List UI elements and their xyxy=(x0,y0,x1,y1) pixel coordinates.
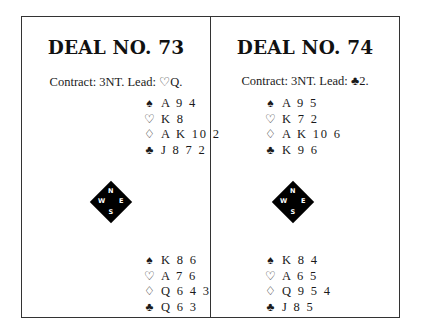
spade-icon: ♠ xyxy=(143,253,156,269)
club-cards: J 8 5 xyxy=(282,300,315,316)
spade-cards: A 9 4 xyxy=(161,96,197,112)
compass-north: N xyxy=(108,188,113,195)
club-cards: K 9 6 xyxy=(282,143,319,159)
north-hand: ♠ A 9 5 ♡ K 7 2 ♢ A K 10 6 ♣ K 9 6 xyxy=(264,96,342,158)
compass-east: E xyxy=(119,198,123,205)
north-hearts: ♡ K 8 xyxy=(143,112,221,128)
compass-north: N xyxy=(290,188,295,195)
club-cards: J 8 7 2 xyxy=(161,143,207,159)
spade-icon: ♠ xyxy=(264,253,277,269)
north-clubs: ♣ J 8 7 2 xyxy=(143,143,221,159)
compass-east: E xyxy=(301,198,305,205)
south-hand: ♠ K 8 4 ♡ A 6 5 ♢ Q 9 5 4 ♣ J 8 5 xyxy=(264,253,332,315)
heart-cards: A 6 5 xyxy=(282,269,318,285)
club-icon: ♣ xyxy=(143,143,156,159)
compass-west: W xyxy=(98,198,105,205)
deal-panel-73: DEAL NO. 73 Contract: 3NT. Lead: ♡Q. ♠ A… xyxy=(22,17,211,317)
compass-diamond-icon: N W E S xyxy=(90,181,132,223)
north-diamonds: ♢ A K 10 2 xyxy=(143,127,221,143)
north-hand: ♠ A 9 4 ♡ K 8 ♢ A K 10 2 ♣ J 8 7 2 xyxy=(143,96,221,158)
south-hand: ♠ K 8 6 ♡ A 7 6 ♢ Q 6 4 3 ♣ Q 6 3 xyxy=(143,253,211,315)
diamond-icon: ♢ xyxy=(143,284,156,300)
club-cards: Q 6 3 xyxy=(161,300,198,316)
contract-line: Contract: 3NT. Lead: ♡Q. xyxy=(22,74,210,90)
spade-cards: K 8 6 xyxy=(161,253,198,269)
north-spades: ♠ A 9 5 xyxy=(264,96,342,112)
compass-south: S xyxy=(109,209,114,216)
spade-icon: ♠ xyxy=(264,96,277,112)
south-clubs: ♣ J 8 5 xyxy=(264,300,332,316)
north-clubs: ♣ K 9 6 xyxy=(264,143,342,159)
south-diamonds: ♢ Q 9 5 4 xyxy=(264,284,332,300)
compass-south: S xyxy=(291,209,296,216)
south-spades: ♠ K 8 6 xyxy=(143,253,211,269)
heart-cards: K 8 xyxy=(161,112,185,128)
club-icon: ♣ xyxy=(264,143,277,159)
south-diamonds: ♢ Q 6 4 3 xyxy=(143,284,211,300)
spade-cards: A 9 5 xyxy=(282,96,318,112)
south-hearts: ♡ A 6 5 xyxy=(264,269,332,285)
north-spades: ♠ A 9 4 xyxy=(143,96,221,112)
diamond-icon: ♢ xyxy=(264,127,277,143)
heart-icon: ♡ xyxy=(143,269,156,285)
club-icon: ♣ xyxy=(143,300,156,316)
heart-cards: K 7 2 xyxy=(282,112,319,128)
club-icon: ♣ xyxy=(264,300,277,316)
south-spades: ♠ K 8 4 xyxy=(264,253,332,269)
heart-icon: ♡ xyxy=(264,112,277,128)
diamond-icon: ♢ xyxy=(264,284,277,300)
compass-west: W xyxy=(280,198,287,205)
deal-panel-74: DEAL NO. 74 Contract: 3NT. Lead: ♣2. ♠ A… xyxy=(211,17,399,317)
north-hearts: ♡ K 7 2 xyxy=(264,112,342,128)
contract-line: Contract: 3NT. Lead: ♣2. xyxy=(211,74,399,89)
deals-frame: DEAL NO. 73 Contract: 3NT. Lead: ♡Q. ♠ A… xyxy=(21,16,400,318)
diamond-icon: ♢ xyxy=(143,127,156,143)
south-hearts: ♡ A 7 6 xyxy=(143,269,211,285)
spade-cards: K 8 4 xyxy=(282,253,319,269)
south-clubs: ♣ Q 6 3 xyxy=(143,300,211,316)
heart-icon: ♡ xyxy=(264,269,277,285)
north-diamonds: ♢ A K 10 6 xyxy=(264,127,342,143)
deal-title: DEAL NO. 73 xyxy=(22,37,210,58)
compass-diamond-icon: N W E S xyxy=(272,181,314,223)
diamond-cards: Q 6 4 3 xyxy=(161,284,211,300)
diamond-cards: A K 10 6 xyxy=(282,127,342,143)
diamond-cards: Q 9 5 4 xyxy=(282,284,332,300)
deal-title: DEAL NO. 74 xyxy=(211,37,399,58)
spade-icon: ♠ xyxy=(143,96,156,112)
heart-cards: A 7 6 xyxy=(161,269,197,285)
heart-icon: ♡ xyxy=(143,112,156,128)
